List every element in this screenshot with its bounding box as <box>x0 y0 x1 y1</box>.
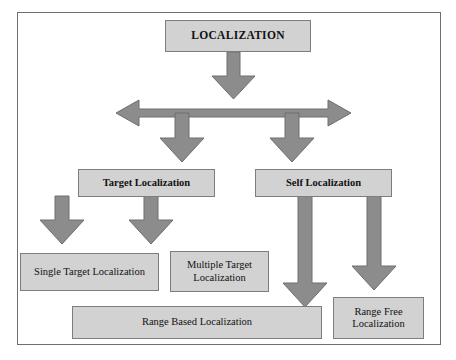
arrow-self-to-range-free <box>352 196 396 290</box>
arrow-target-to-single <box>40 196 84 244</box>
node-target-localization[interactable]: Target Localization <box>78 169 215 197</box>
arrow-split-to-target <box>160 113 204 162</box>
node-self-localization[interactable]: Self Localization <box>255 169 392 197</box>
node-localization-label: LOCALIZATION <box>188 29 288 42</box>
arrow-root-to-split <box>212 52 255 99</box>
node-range-free-localization-label: Range Free Localization <box>349 306 407 330</box>
node-target-localization-label: Target Localization <box>100 177 193 189</box>
node-multiple-target-localization-label: Multiple Target Localization <box>184 259 255 283</box>
arrow-target-to-multiple <box>129 196 173 244</box>
arrow-self-to-range-based <box>283 196 327 307</box>
node-single-target-localization-label: Single Target Localization <box>31 266 148 278</box>
diagram-canvas: LOCALIZATION Target Localization Self Lo… <box>0 0 456 360</box>
node-multiple-target-localization[interactable]: Multiple Target Localization <box>170 251 269 292</box>
arrow-horizontal-split-bar <box>116 100 351 126</box>
node-self-localization-label: Self Localization <box>283 177 364 189</box>
node-range-free-localization[interactable]: Range Free Localization <box>333 297 424 339</box>
node-range-based-localization-label: Range Based Localization <box>139 316 255 328</box>
node-single-target-localization[interactable]: Single Target Localization <box>20 253 159 291</box>
arrow-split-to-self <box>270 113 314 162</box>
node-localization[interactable]: LOCALIZATION <box>165 20 311 52</box>
node-range-based-localization[interactable]: Range Based Localization <box>72 306 322 339</box>
